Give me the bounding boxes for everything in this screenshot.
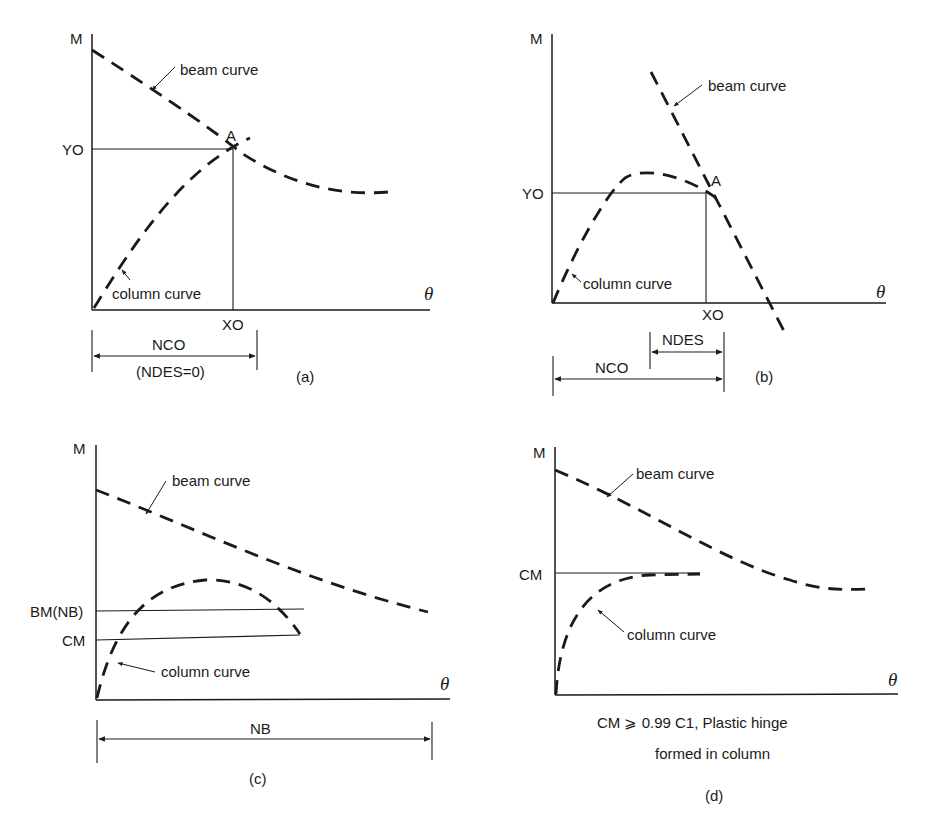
nco-label: NCO: [152, 336, 185, 353]
panel-caption: (b): [755, 368, 773, 385]
beam-label: beam curve: [636, 465, 714, 482]
beam-leader-arrow: [146, 481, 166, 514]
x-axis: [555, 694, 898, 695]
y-axis-label: M: [70, 30, 83, 47]
beam-curve: [555, 470, 868, 589]
x-axis-label: θ: [876, 281, 885, 302]
column-leader-arrow: [572, 274, 581, 282]
beam-leader-arrow: [152, 67, 175, 90]
x-axis-label: θ: [424, 283, 433, 304]
column-label: column curve: [583, 275, 672, 292]
ndes-zero-label: (NDES=0): [136, 363, 205, 380]
beam-leader-arrow: [674, 85, 702, 106]
column-leader-arrow: [118, 663, 155, 672]
y-axis-label: M: [533, 444, 546, 461]
beam-leader-arrow: [607, 474, 633, 497]
column-label: column curve: [161, 663, 250, 680]
column-label: column curve: [627, 626, 716, 643]
column-leader-arrow: [122, 270, 130, 280]
panel-a: M θ YO XO A beam curve column curve NCO …: [62, 30, 433, 385]
beam-label: beam curve: [708, 77, 786, 94]
bm-nb-label: BM(NB): [30, 603, 83, 620]
x-axis: [96, 699, 450, 700]
panel-caption: (d): [705, 787, 723, 804]
panel-b: M θ YO XO A beam curve column curve NDES…: [522, 30, 886, 396]
beam-label: beam curve: [172, 472, 250, 489]
y-axis-label: M: [73, 440, 86, 457]
nco-label: NCO: [595, 359, 628, 376]
column-leader-arrow: [598, 610, 624, 632]
bm-nb-guide-line: [96, 609, 304, 611]
note-line-2: formed in column: [655, 745, 770, 762]
panel-caption: (a): [296, 368, 314, 385]
ndes-label: NDES: [662, 331, 704, 348]
panel-d: M θ CM beam curve column curve CM ⩾ 0.99…: [519, 444, 898, 804]
column-curve: [94, 138, 250, 308]
xo-label: XO: [222, 316, 244, 333]
beam-curve: [651, 72, 786, 335]
yo-label: YO: [522, 185, 544, 202]
point-a-label: A: [711, 172, 721, 189]
nb-label: NB: [250, 720, 271, 737]
panel-caption: (c): [249, 770, 267, 787]
y-axis-label: M: [530, 30, 543, 47]
beam-curve: [96, 490, 428, 612]
cm-label: CM: [62, 632, 85, 649]
x-axis-label: θ: [440, 673, 449, 694]
panel-c: M θ BM(NB) CM beam curve column curve NB…: [30, 440, 450, 787]
cm-label: CM: [519, 566, 542, 583]
beam-label: beam curve: [180, 61, 258, 78]
column-label: column curve: [112, 285, 201, 302]
yo-label: YO: [62, 141, 84, 158]
note-line-1: CM ⩾ 0.99 C1, Plastic hinge: [597, 714, 788, 731]
figure-canvas: M θ YO XO A beam curve column curve NCO …: [0, 0, 927, 835]
cm-guide-line: [96, 635, 300, 640]
xo-label: XO: [702, 306, 724, 323]
x-axis-label: θ: [888, 669, 897, 690]
